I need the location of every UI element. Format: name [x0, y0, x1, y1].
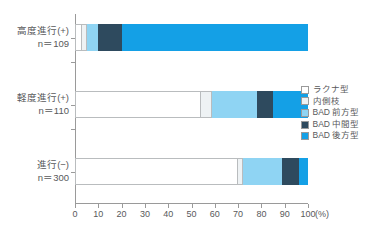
x-tick-label-20: 20 — [110, 209, 134, 219]
x-tick-label-80: 80 — [249, 209, 273, 219]
legend-item-3[interactable]: BAD 中間型 — [301, 119, 359, 131]
bar-segment-1 — [201, 91, 213, 118]
legend-label: BAD 前方型 — [313, 107, 360, 119]
category-label-2: 進行(−)n＝300 — [37, 159, 69, 184]
x-tick-20 — [122, 204, 123, 208]
bar-segment-2 — [212, 91, 256, 118]
legend-label: ラクナ型 — [313, 84, 349, 96]
legend-label: BAD 後方型 — [313, 130, 360, 142]
x-tick-label-70: 70 — [226, 209, 250, 219]
legend-item-2[interactable]: BAD 前方型 — [301, 107, 359, 119]
legend-label: 内側枝 — [313, 96, 340, 108]
bar-segment-0 — [75, 158, 238, 185]
x-tick-70 — [238, 204, 239, 208]
legend-swatch-icon — [301, 97, 309, 105]
chart-legend: ラクナ型内側枝BAD 前方型BAD 中間型BAD 後方型 — [301, 84, 359, 142]
bar-segment-3 — [282, 158, 298, 185]
bar-row — [75, 158, 308, 185]
x-axis-unit-label: (%) — [315, 209, 329, 219]
legend-swatch-icon — [301, 132, 309, 140]
bar-segment-0 — [75, 91, 201, 118]
x-tick-label-0: 0 — [63, 209, 87, 219]
x-tick-10 — [98, 204, 99, 208]
x-tick-40 — [168, 204, 169, 208]
x-tick-label-60: 60 — [203, 209, 227, 219]
bar-row — [75, 24, 308, 51]
category-label-0: 高度進行(+)n＝109 — [17, 25, 69, 50]
category-name: 高度進行(+) — [17, 25, 69, 36]
bar-segment-3 — [98, 24, 121, 51]
category-name: 進行(−) — [37, 159, 69, 170]
legend-item-0[interactable]: ラクナ型 — [301, 84, 359, 96]
x-tick-label-90: 90 — [273, 209, 297, 219]
x-tick-100 — [308, 204, 309, 208]
bar-segment-0 — [75, 24, 82, 51]
category-count: n＝110 — [17, 105, 69, 118]
bar-segment-4 — [122, 24, 308, 51]
y-tick-minor-0 — [71, 62, 75, 63]
bar-row — [75, 91, 308, 118]
x-tick-label-50: 50 — [180, 209, 204, 219]
legend-item-1[interactable]: 内側枝 — [301, 96, 359, 108]
legend-swatch-icon — [301, 86, 309, 94]
bar-segment-3 — [257, 91, 273, 118]
stacked-bar-chart: 高度進行(+)n＝109軽度進行(+)n＝110進行(−)n＝300 01020… — [0, 0, 385, 234]
x-tick-label-10: 10 — [86, 209, 110, 219]
bar-segment-2 — [87, 24, 99, 51]
category-count: n＝300 — [37, 172, 69, 185]
x-tick-0 — [75, 204, 76, 208]
category-label-1: 軽度進行(+)n＝110 — [17, 92, 69, 117]
category-count: n＝109 — [17, 38, 69, 51]
x-tick-50 — [192, 204, 193, 208]
legend-item-4[interactable]: BAD 後方型 — [301, 130, 359, 142]
x-tick-80 — [261, 204, 262, 208]
x-tick-90 — [285, 204, 286, 208]
x-tick-label-30: 30 — [133, 209, 157, 219]
y-tick-minor-1 — [71, 129, 75, 130]
category-name: 軽度進行(+) — [17, 92, 69, 103]
x-tick-60 — [215, 204, 216, 208]
bar-segment-2 — [243, 158, 283, 185]
x-tick-30 — [145, 204, 146, 208]
legend-label: BAD 中間型 — [313, 119, 360, 131]
legend-swatch-icon — [301, 121, 309, 129]
x-tick-label-40: 40 — [156, 209, 180, 219]
legend-swatch-icon — [301, 109, 309, 117]
bar-segment-4 — [299, 158, 308, 185]
